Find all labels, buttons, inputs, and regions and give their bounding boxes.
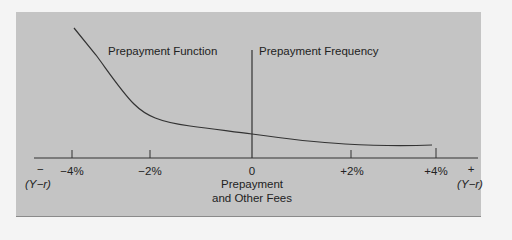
tick-label-m2: −2% xyxy=(138,165,161,178)
tick-label-p2: +2% xyxy=(340,165,363,178)
right-sign: + xyxy=(468,163,475,176)
x-label-line2: and Other Fees xyxy=(212,192,292,205)
tick-label-m4: −4% xyxy=(60,165,83,178)
right-axis-label: (Y−r) xyxy=(457,178,483,191)
x-label-line1: Prepayment xyxy=(221,178,283,191)
prepayment-frequency-label: Prepayment Frequency xyxy=(259,45,379,58)
tick-label-0: 0 xyxy=(249,165,255,178)
prepayment-function-label: Prepayment Function xyxy=(108,45,217,58)
tick-label-p4: +4% xyxy=(424,165,447,178)
left-axis-label: (Y−r) xyxy=(25,178,51,191)
left-sign: − xyxy=(37,163,44,176)
